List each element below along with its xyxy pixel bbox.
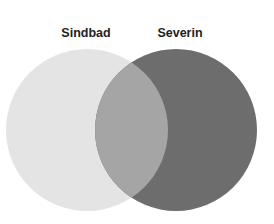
set-label-severin: Severin: [157, 26, 202, 40]
venn-diagram: Sindbad Severin: [0, 0, 274, 224]
set-label-sindbad: Sindbad: [61, 26, 110, 40]
